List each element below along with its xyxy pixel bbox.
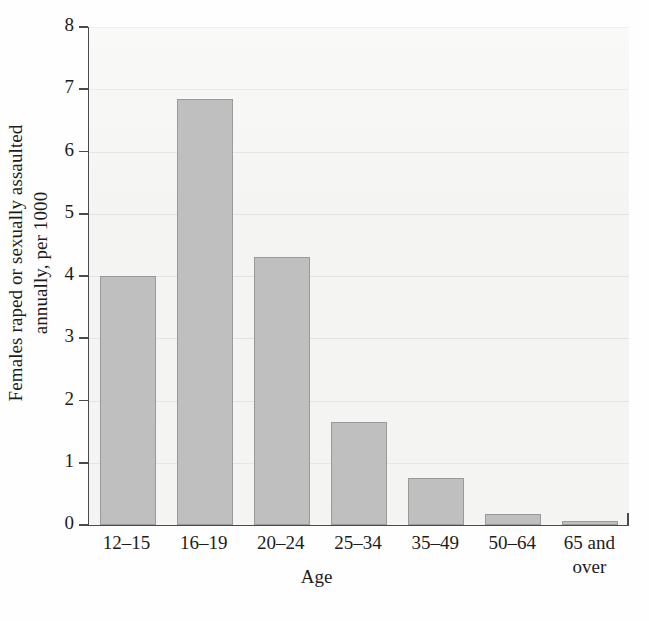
bar-slot (475, 27, 552, 525)
y-axis-tick-label: 4 (44, 263, 74, 285)
y-axis-tick-label: 3 (44, 325, 74, 347)
y-axis-tick (79, 151, 88, 153)
y-axis-tick (79, 88, 88, 90)
y-axis-tick-label: 6 (44, 139, 74, 161)
bar-slot (243, 27, 320, 525)
bar[interactable] (331, 422, 387, 525)
y-axis-label-line1: Females raped or sexually assaulted (5, 124, 26, 401)
bar[interactable] (177, 99, 233, 525)
y-axis-tick (79, 400, 88, 402)
y-axis-tick-label: 2 (44, 388, 74, 410)
bar-slot (166, 27, 243, 525)
x-axis-tick-label-line1: 16–19 (180, 532, 228, 553)
bar-slot (398, 27, 475, 525)
y-axis-tick (79, 26, 88, 28)
x-axis-tick-label-line1: 65 and (564, 532, 615, 553)
x-axis-tick-label-line1: 25–34 (334, 532, 382, 553)
y-axis-tick-label: 1 (44, 450, 74, 472)
y-axis-tick (79, 462, 88, 464)
bar[interactable] (254, 257, 310, 525)
bar-chart-figure: Females raped or sexually assaulted annu… (0, 0, 649, 621)
bar[interactable] (562, 521, 618, 525)
y-axis-tick (79, 213, 88, 215)
bar-slot (89, 27, 166, 525)
x-axis-tick-label-line1: 50–64 (489, 532, 537, 553)
y-axis-tick-label: 8 (44, 14, 74, 36)
y-axis-tick (79, 524, 88, 526)
y-axis-tick-label: 7 (44, 76, 74, 98)
bar[interactable] (485, 514, 541, 525)
bar-slot (320, 27, 397, 525)
y-axis-tick (79, 337, 88, 339)
x-axis-label-text: Age (301, 566, 333, 587)
bar-series (89, 27, 629, 525)
plot-area (88, 27, 629, 526)
bar[interactable] (408, 478, 464, 525)
x-axis-tick-label-line1: 20–24 (257, 532, 305, 553)
y-axis-tick-label: 0 (44, 512, 74, 534)
y-axis-tick (79, 275, 88, 277)
x-axis-label: Age (0, 566, 649, 588)
bar[interactable] (100, 276, 156, 525)
bar-slot (552, 27, 629, 525)
x-axis-tick-label-line1: 35–49 (411, 532, 459, 553)
x-axis-tick-label-line1: 12–15 (103, 532, 151, 553)
y-axis-tick-label: 5 (44, 201, 74, 223)
